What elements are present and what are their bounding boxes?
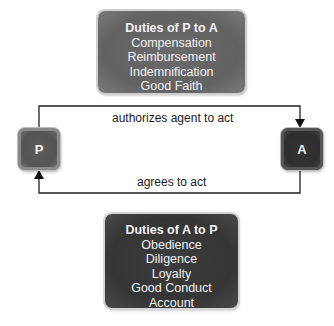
duties-a-to-p-title: Duties of A to P bbox=[105, 223, 238, 238]
duties-principal-to-agent-box: Duties of P to A Compensation Reimbursem… bbox=[98, 11, 245, 93]
duty-item: Reimbursement bbox=[98, 50, 245, 65]
arrowhead-down-icon bbox=[295, 119, 305, 128]
duty-item: Compensation bbox=[98, 36, 245, 51]
agrees-arrow-label: agrees to act bbox=[137, 175, 206, 189]
agent-node: A bbox=[281, 128, 323, 170]
duty-item: Account bbox=[105, 296, 238, 311]
principal-label: P bbox=[35, 142, 44, 157]
duty-item: Obedience bbox=[105, 238, 238, 253]
arrowhead-up-icon bbox=[34, 170, 44, 179]
duties-agent-to-principal-box: Duties of A to P Obedience Diligence Loy… bbox=[105, 214, 238, 308]
duty-item: Diligence bbox=[105, 252, 238, 267]
principal-node: P bbox=[18, 128, 60, 170]
duty-item: Good Faith bbox=[98, 79, 245, 94]
duty-item: Indemnification bbox=[98, 65, 245, 80]
authorizes-arrow-label: authorizes agent to act bbox=[112, 111, 233, 125]
duty-item: Loyalty bbox=[105, 267, 238, 282]
agent-label: A bbox=[297, 142, 306, 157]
duties-p-to-a-title: Duties of P to A bbox=[98, 21, 245, 36]
duty-item: Good Conduct bbox=[105, 281, 238, 296]
